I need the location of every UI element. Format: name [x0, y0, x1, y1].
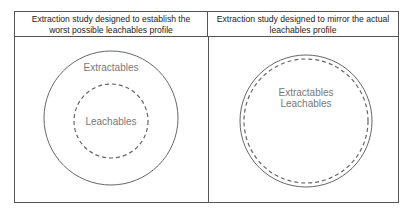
leachables-label: Leachables	[85, 116, 136, 127]
extractables-label: Extractables	[83, 62, 138, 73]
extractables-circle	[240, 55, 372, 187]
leachables-dashed-circle	[244, 59, 368, 183]
leachables-label: Leachables	[280, 98, 331, 109]
venn-diagrams: Extractables Leachables Extractables Lea…	[0, 0, 415, 214]
extractables-label: Extractables	[278, 87, 333, 98]
